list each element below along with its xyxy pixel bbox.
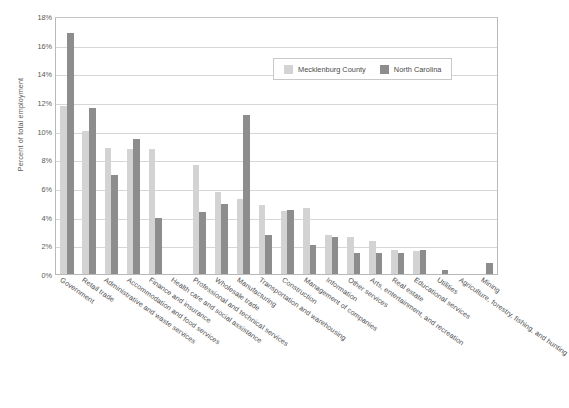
bar	[133, 139, 140, 274]
bar	[413, 251, 420, 274]
bar-group	[188, 18, 210, 274]
bar	[215, 192, 222, 274]
x-axis-category-labels: GovernmentRetail tradeAdministrative and…	[55, 276, 498, 406]
legend-entry: Mecklenburg County	[284, 65, 366, 74]
y-axis-tick-label: 0%	[22, 271, 52, 280]
bar	[442, 270, 449, 274]
bar	[391, 250, 398, 274]
bar	[354, 253, 361, 275]
y-axis-tick-label: 14%	[22, 70, 52, 79]
bar	[347, 237, 354, 274]
bar	[376, 253, 383, 275]
bar-group	[166, 18, 188, 274]
y-axis-tick-label: 12%	[22, 99, 52, 108]
bar-group	[365, 18, 387, 274]
bar-group	[475, 18, 497, 274]
legend-label: Mecklenburg County	[298, 65, 366, 74]
bar-group	[56, 18, 78, 274]
bar-group	[321, 18, 343, 274]
bar	[149, 149, 156, 274]
legend-entry: North Carolina	[380, 65, 442, 74]
y-axis-tick-label: 10%	[22, 127, 52, 136]
bar-group	[100, 18, 122, 274]
y-axis-tick-labels: 18%16%14%12%10%8%6%4%2%0%	[22, 17, 52, 275]
y-axis-tick-label: 16%	[22, 41, 52, 50]
bar	[310, 245, 317, 274]
bar	[221, 204, 228, 274]
chart-legend: Mecklenburg CountyNorth Carolina	[273, 58, 452, 80]
bar-groups	[56, 18, 497, 274]
y-axis-tick-label: 8%	[22, 156, 52, 165]
bar-group	[122, 18, 144, 274]
legend-swatch-mecklenburg	[284, 65, 293, 74]
bar	[325, 235, 332, 274]
y-axis-tick-label: 18%	[22, 13, 52, 22]
bar	[155, 218, 162, 274]
bar-group	[409, 18, 431, 274]
bar	[259, 205, 266, 274]
legend-label: North Carolina	[394, 65, 442, 74]
bar-group	[431, 18, 453, 274]
bar	[199, 212, 206, 274]
bar	[243, 115, 250, 274]
y-axis-tick-label: 2%	[22, 242, 52, 251]
bar	[303, 208, 310, 274]
bar	[105, 148, 112, 274]
plot-area	[55, 17, 498, 275]
bar-group	[343, 18, 365, 274]
bar	[332, 237, 339, 274]
bar-group	[78, 18, 100, 274]
bar-group	[232, 18, 254, 274]
bar	[60, 106, 67, 274]
bar	[89, 108, 96, 274]
y-axis-tick-label: 6%	[22, 185, 52, 194]
bar	[265, 235, 272, 274]
bar	[420, 250, 427, 274]
bar-group	[254, 18, 276, 274]
legend-swatch-north-carolina	[380, 65, 389, 74]
bar	[127, 149, 134, 274]
bar	[193, 165, 200, 274]
y-axis-tick-label: 4%	[22, 213, 52, 222]
bar-group	[210, 18, 232, 274]
x-axis-category-label: Agriculture, forestry, fishing, and hunt…	[457, 276, 569, 358]
bar-group	[299, 18, 321, 274]
bar	[369, 241, 376, 274]
bar-group	[144, 18, 166, 274]
bar	[67, 33, 74, 274]
bar	[281, 211, 288, 274]
bar	[82, 131, 89, 274]
bar	[398, 253, 405, 275]
bar	[486, 263, 493, 274]
bar-group	[276, 18, 298, 274]
bar-group	[453, 18, 475, 274]
bar	[237, 199, 244, 274]
bar-group	[387, 18, 409, 274]
bar	[111, 175, 118, 274]
bar	[287, 210, 294, 275]
